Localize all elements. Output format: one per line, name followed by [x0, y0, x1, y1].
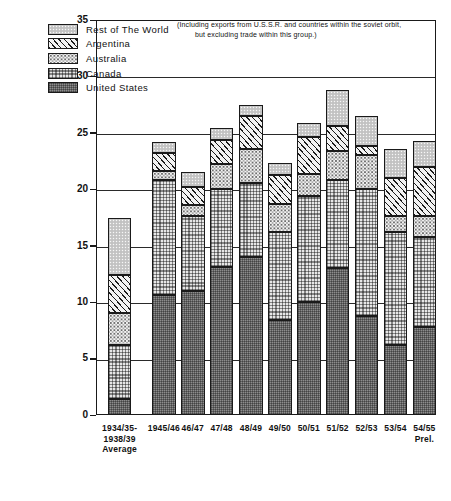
- segment-australia: [152, 171, 176, 180]
- segment-argentina: [413, 167, 437, 217]
- segment-canada: [152, 180, 176, 295]
- segment-argentina: [152, 153, 176, 171]
- legend-label: Canada: [86, 68, 122, 79]
- segment-canada: [181, 216, 205, 290]
- segment-rest-of-the-world: [413, 141, 437, 167]
- segment-australia: [181, 205, 205, 216]
- segment-united-states: [384, 345, 408, 415]
- segment-canada: [326, 180, 350, 268]
- y-tick-label: 5: [62, 352, 88, 363]
- legend-swatch-rest-of-the-world: [48, 24, 78, 35]
- legend-swatch-united-states: [48, 82, 78, 93]
- segment-argentina: [326, 126, 350, 151]
- bar-8: [326, 90, 350, 415]
- legend-item-australia: Australia: [48, 51, 169, 66]
- segment-rest-of-the-world: [326, 90, 350, 126]
- bar-6: [268, 163, 292, 415]
- x-axis: 1934/35-1938/39Average1945/4646/4747/484…: [96, 419, 436, 479]
- segment-rest-of-the-world: [297, 123, 321, 138]
- segment-canada: [210, 189, 234, 267]
- segment-united-states: [268, 320, 292, 415]
- segment-canada: [239, 183, 263, 257]
- legend-item-argentina: Argentina: [48, 37, 169, 52]
- segment-australia: [384, 216, 408, 232]
- segment-united-states: [355, 316, 379, 415]
- segment-united-states: [210, 267, 234, 415]
- x-tick-label: 1934/35-1938/39Average: [98, 423, 142, 455]
- legend-item-rest-of-the-world: Rest of The World: [48, 22, 169, 37]
- stacked-bar-chart: MILLION METRIC TONS 35 30 25 20 15 10 5 …: [0, 0, 451, 501]
- segment-rest-of-the-world: [181, 172, 205, 187]
- bar-9: [355, 116, 379, 415]
- bar-2: [152, 142, 176, 415]
- segment-united-states: [108, 399, 132, 415]
- segment-rest-of-the-world: [384, 149, 408, 178]
- legend: Rest of The World Argentina Australia Ca…: [48, 22, 169, 95]
- y-tick-label: 15: [62, 240, 88, 251]
- legend-swatch-argentina: [48, 38, 78, 49]
- segment-argentina: [210, 140, 234, 165]
- bar-7: [297, 123, 321, 415]
- segment-argentina: [108, 275, 132, 313]
- segment-argentina: [297, 137, 321, 173]
- legend-swatch-australia: [48, 53, 78, 64]
- segment-canada: [355, 189, 379, 315]
- bar-3: [181, 172, 205, 415]
- segment-rest-of-the-world: [108, 218, 132, 276]
- segment-australia: [210, 164, 234, 189]
- segment-united-states: [326, 268, 350, 415]
- segment-canada: [297, 196, 321, 302]
- legend-item-united-states: United States: [48, 80, 169, 95]
- segment-canada: [268, 232, 292, 320]
- y-tick-label: 25: [62, 127, 88, 138]
- y-tick-label: 20: [62, 183, 88, 194]
- segment-argentina: [181, 187, 205, 205]
- bar-5: [239, 105, 263, 415]
- segment-united-states: [413, 327, 437, 415]
- segment-australia: [297, 174, 321, 197]
- segment-united-states: [181, 291, 205, 415]
- segment-united-states: [239, 257, 263, 415]
- segment-canada: [413, 237, 437, 327]
- bar-1: [108, 218, 132, 416]
- segment-united-states: [152, 295, 176, 415]
- segment-rest-of-the-world: [152, 142, 176, 153]
- segment-argentina: [384, 178, 408, 216]
- legend-label: United States: [86, 82, 148, 93]
- legend-label: Australia: [86, 53, 127, 64]
- legend-label: Argentina: [86, 38, 130, 49]
- figure-caption: [30, 489, 430, 499]
- y-tick-label: 0: [62, 409, 88, 420]
- segment-australia: [326, 151, 350, 180]
- x-tick-label: 54/55Prel.: [403, 423, 447, 444]
- bar-4: [210, 128, 234, 415]
- segment-canada: [108, 345, 132, 399]
- bar-11: [413, 141, 437, 415]
- y-tick-label: 10: [62, 296, 88, 307]
- segment-rest-of-the-world: [210, 128, 234, 139]
- segment-australia: [239, 149, 263, 183]
- segment-canada: [384, 232, 408, 345]
- segment-australia: [108, 313, 132, 345]
- legend-item-canada: Canada: [48, 66, 169, 81]
- segment-rest-of-the-world: [268, 163, 292, 174]
- segment-argentina: [355, 146, 379, 155]
- bar-10: [384, 149, 408, 415]
- segment-argentina: [239, 116, 263, 149]
- segment-rest-of-the-world: [355, 116, 379, 146]
- legend-label: Rest of The World: [86, 24, 169, 35]
- segment-rest-of-the-world: [239, 105, 263, 116]
- segment-australia: [355, 155, 379, 189]
- legend-swatch-canada: [48, 68, 78, 79]
- segment-australia: [268, 204, 292, 232]
- segment-australia: [413, 216, 437, 236]
- segment-argentina: [268, 175, 292, 204]
- segment-united-states: [297, 302, 321, 415]
